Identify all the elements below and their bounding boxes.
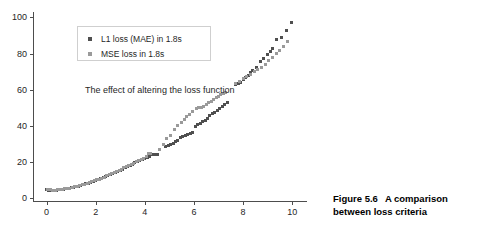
scatter-point: [176, 124, 179, 127]
y-tick-label: 100: [12, 13, 27, 22]
scatter-point: [267, 59, 270, 62]
scatter-point: [188, 113, 191, 116]
scatter-point: [242, 77, 245, 80]
x-tick-label: 2: [93, 208, 98, 217]
square-marker-icon: [88, 37, 92, 41]
scatter-point: [180, 121, 183, 124]
scatter-point: [149, 152, 152, 155]
scatter-point: [280, 36, 283, 39]
x-tick-mark: [194, 202, 195, 205]
scatter-point: [191, 131, 194, 134]
legend-item-label: MSE loss in 1.8s: [101, 49, 164, 59]
plot-annotation-text: The effect of altering the loss function: [85, 85, 234, 96]
scatter-point: [238, 80, 241, 83]
scatter-point: [183, 118, 186, 121]
scatter-point: [259, 60, 262, 63]
scatter-point: [275, 52, 278, 55]
scatter-point: [269, 50, 272, 53]
scatter-point: [282, 45, 285, 48]
x-tick-mark: [47, 202, 48, 205]
legend-item[interactable]: MSE loss in 1.8s: [85, 47, 203, 60]
figure-caption: Figure 5.6A comparison between loss crit…: [333, 192, 479, 218]
scatter-point: [206, 117, 209, 120]
scatter-plot-panel: 020406080100 0246810 L1 loss (MAE) in 1.…: [0, 0, 320, 244]
x-tick-mark: [243, 202, 244, 205]
y-tick-label: 40: [17, 122, 27, 131]
x-tick-mark: [96, 202, 97, 205]
scatter-point: [234, 82, 237, 85]
x-tick-label: 0: [44, 208, 49, 217]
scatter-point: [256, 68, 259, 71]
figure-caption-label: Figure 5.6: [333, 193, 378, 204]
axes-frame: 020406080100 0246810 L1 loss (MAE) in 1.…: [33, 12, 307, 202]
x-tick-label: 10: [287, 208, 297, 217]
legend: L1 loss (MAE) in 1.8s MSE loss in 1.8s: [77, 26, 211, 61]
scatter-point: [145, 155, 148, 158]
y-tick-label: 80: [17, 49, 27, 58]
scatter-point: [271, 56, 274, 59]
scatter-point: [262, 57, 265, 60]
scatter-point: [271, 47, 274, 50]
scatter-point: [169, 134, 172, 137]
x-tick-mark: [145, 202, 146, 205]
scatter-point: [275, 38, 278, 41]
scatter-point: [260, 66, 263, 69]
legend-item-label: L1 loss (MAE) in 1.8s: [101, 34, 182, 44]
scatter-point: [191, 110, 194, 113]
x-tick-mark: [292, 202, 293, 205]
y-tick-label: 60: [17, 85, 27, 94]
x-tick-label: 8: [241, 208, 246, 217]
scatter-point: [266, 53, 269, 56]
scatter-point: [165, 137, 168, 140]
scatter-point: [253, 70, 256, 73]
scatter-point: [176, 139, 179, 142]
x-tick-label: 4: [142, 208, 147, 217]
scatter-point: [264, 63, 267, 66]
square-marker-icon: [88, 52, 92, 56]
scatter-point: [156, 153, 159, 156]
x-tick-label: 6: [191, 208, 196, 217]
scatter-point: [162, 143, 165, 146]
scatter-point: [226, 101, 229, 104]
scatter-point: [286, 40, 289, 43]
scatter-point: [249, 73, 252, 76]
y-tick-label: 0: [22, 194, 27, 203]
figure-container: 020406080100 0246810 L1 loss (MAE) in 1.…: [0, 0, 482, 244]
scatter-point: [158, 148, 161, 151]
scatter-point: [173, 128, 176, 131]
scatter-point: [290, 21, 293, 24]
scatter-point: [278, 49, 281, 52]
scatter-point: [245, 75, 248, 78]
y-tick-label: 20: [17, 158, 27, 167]
scatter-point: [285, 29, 288, 32]
legend-item[interactable]: L1 loss (MAE) in 1.8s: [85, 32, 203, 45]
